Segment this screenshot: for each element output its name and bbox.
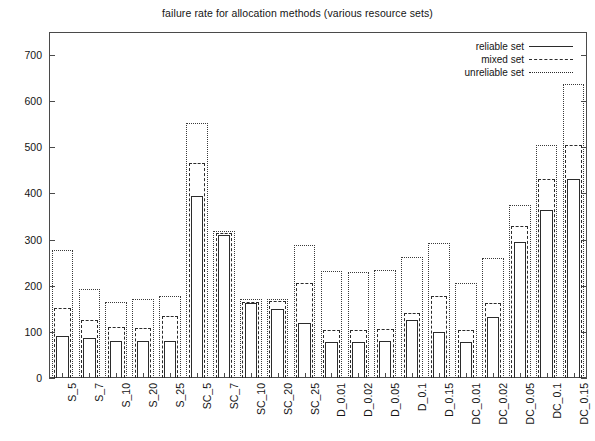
bar-group: [399, 32, 426, 378]
bar-group: [103, 32, 130, 378]
x-axis-tick-label: D_0.02: [362, 383, 374, 417]
bar-reliable-set: [83, 338, 95, 378]
y-axis-tick-label: 100: [8, 326, 42, 338]
legend-entry: unreliable set: [465, 66, 573, 79]
x-axis-tick-label: D_0.15: [443, 383, 455, 417]
bar-group: [210, 32, 237, 378]
bar-reliable-set: [110, 341, 122, 378]
x-axis-tick-label: SC_7: [228, 383, 240, 409]
bar-group: [318, 32, 345, 378]
y-axis-tick-label: 200: [8, 280, 42, 292]
bar-reliable-set: [325, 342, 337, 378]
legend-swatch-solid-icon: [529, 46, 573, 47]
legend-swatch-dashed-icon: [529, 59, 573, 60]
y-axis-tick-label: 300: [8, 234, 42, 246]
bar-group: [264, 32, 291, 378]
y-axis-tick-label: 0: [8, 372, 42, 384]
bar-group: [533, 32, 560, 378]
legend-label: mixed set: [481, 54, 524, 65]
x-axis-tick-label: S_7: [93, 383, 105, 402]
x-axis-tick-label: S_5: [66, 383, 78, 402]
bar-group: [506, 32, 533, 378]
bar-reliable-set: [352, 342, 364, 378]
bar-reliable-set: [379, 341, 391, 378]
bar-group: [426, 32, 453, 378]
bar-group: [49, 32, 76, 378]
bar-reliable-set: [218, 235, 230, 378]
legend-label: unreliable set: [465, 67, 524, 78]
bar-group: [479, 32, 506, 378]
x-axis-tick-label: DC_0.02: [497, 383, 509, 424]
bar-reliable-set: [540, 210, 552, 378]
chart-legend: reliable setmixed setunreliable set: [465, 40, 573, 79]
bar-group: [372, 32, 399, 378]
y-axis-tick-label: 700: [8, 49, 42, 61]
bar-group: [184, 32, 211, 378]
x-axis-tick-label: DC_0.01: [470, 383, 482, 424]
bar-group: [345, 32, 372, 378]
x-axis-tick-label: D_0.1: [416, 383, 428, 411]
x-axis-tick-label: S_10: [120, 383, 132, 408]
bar-reliable-set: [298, 323, 310, 378]
bar-reliable-set: [271, 309, 283, 378]
bar-reliable-set: [191, 196, 203, 378]
bar-reliable-set: [567, 179, 579, 378]
x-axis-tick-label: SC_25: [309, 383, 321, 415]
bar-reliable-set: [433, 332, 445, 378]
y-axis-tick-mark: [581, 378, 587, 379]
legend-swatch-dotted-icon: [529, 72, 573, 73]
x-axis-tick-label: D_0.05: [389, 383, 401, 417]
bar-reliable-set: [487, 317, 499, 378]
bar-reliable-set: [514, 242, 526, 378]
x-axis-tick-label: SC_20: [282, 383, 294, 415]
y-axis-tick-label: 600: [8, 95, 42, 107]
bar-reliable-set: [56, 336, 68, 378]
bar-reliable-set: [164, 341, 176, 378]
legend-label: reliable set: [476, 41, 524, 52]
bar-group: [237, 32, 264, 378]
bar-group: [76, 32, 103, 378]
y-axis-tick-label: 400: [8, 187, 42, 199]
x-axis-tick-label: DC_0.1: [551, 383, 563, 419]
bar-group: [157, 32, 184, 378]
x-axis-tick-label: SC_5: [201, 383, 213, 409]
chart-container: failure rate for allocation methods (var…: [0, 0, 595, 441]
bar-reliable-set: [245, 303, 257, 378]
bar-reliable-set: [137, 341, 149, 378]
legend-entry: mixed set: [465, 53, 573, 66]
chart-title: failure rate for allocation methods (var…: [0, 7, 595, 19]
y-axis-tick-label: 500: [8, 141, 42, 153]
x-axis-tick-label: S_20: [147, 383, 159, 408]
y-axis-tick-mark: [49, 378, 55, 379]
bar-reliable-set: [460, 342, 472, 378]
bar-group: [291, 32, 318, 378]
x-axis-tick-label: S_25: [174, 383, 186, 408]
legend-entry: reliable set: [465, 40, 573, 53]
x-axis-tick-label: D_0.01: [335, 383, 347, 417]
x-axis-tick-label: SC_10: [255, 383, 267, 415]
x-axis-tick-label: DC_0.05: [524, 383, 536, 424]
bar-group: [560, 32, 587, 378]
bar-group: [130, 32, 157, 378]
x-axis-tick-label: DC_0.15: [578, 383, 590, 424]
bar-reliable-set: [406, 320, 418, 378]
bar-group: [453, 32, 480, 378]
